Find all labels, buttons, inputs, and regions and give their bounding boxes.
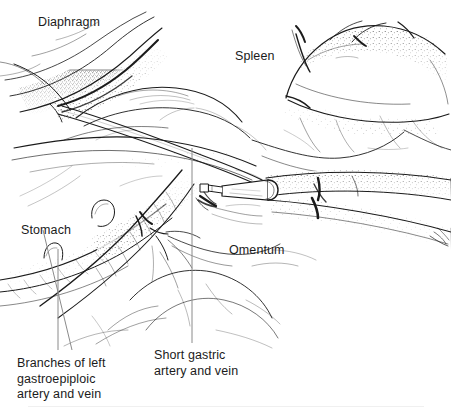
- omentum-region: [262, 166, 451, 252]
- label-short-gastric-artery-and-vein: Short gastric artery and vein: [154, 348, 238, 379]
- label-stomach: Stomach: [21, 223, 71, 239]
- label-diaphragm: Diaphragm: [38, 15, 100, 31]
- bottom-divider: [28, 406, 424, 407]
- label-spleen: Spleen: [235, 49, 275, 65]
- label-omentum: Omentum: [229, 243, 285, 259]
- label-branches-of-left-gastroepiploic-artery-and-vein: Branches of left gastroepiploic artery a…: [17, 356, 105, 403]
- spleen-region: [278, 20, 451, 142]
- anatomical-figure: Diaphragm Spleen Stomach Omentum Branche…: [0, 0, 451, 415]
